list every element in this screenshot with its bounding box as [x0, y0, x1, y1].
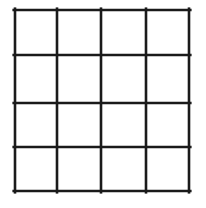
grid-cell: [101, 103, 146, 147]
grid-cell: [146, 10, 189, 55]
grid-cell: [57, 55, 101, 103]
grid-cell: [146, 147, 189, 191]
grid-cell: [15, 10, 57, 55]
grid-figure: [0, 0, 206, 208]
grid-cell: [57, 147, 101, 191]
grid-cell: [101, 55, 146, 103]
grid-cell: [15, 147, 57, 191]
image-canvas: [0, 0, 206, 208]
grid-cell: [15, 103, 57, 147]
grid-cell: [146, 55, 189, 103]
grid-cell: [146, 103, 189, 147]
grid-cell: [101, 147, 146, 191]
grid-svg: [0, 0, 206, 208]
grid-cell: [57, 10, 101, 55]
grid-cell: [57, 103, 101, 147]
grid-cell: [15, 55, 57, 103]
grid-cell: [101, 10, 146, 55]
